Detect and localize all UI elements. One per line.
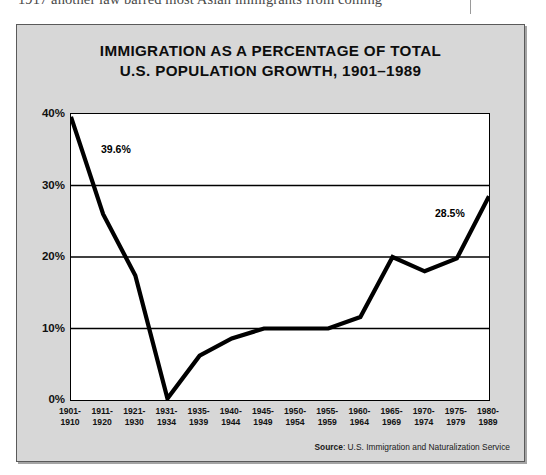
y-axis: 0%10%20%30%40%: [17, 113, 65, 401]
x-tick-label: 1980-1989: [465, 406, 511, 427]
x-axis: 1901-19101911-19201921-19301931-19341935…: [70, 406, 490, 440]
x-tick-label-part: 1980-: [465, 406, 511, 417]
annotation-start-value: 39.6%: [101, 143, 131, 155]
plot-area: [70, 113, 490, 401]
column-divider: [470, 0, 471, 14]
chart-title-line-2: U.S. POPULATION GROWTH, 1901–1989: [17, 61, 524, 81]
chart-figure: IMMIGRATION AS A PERCENTAGE OF TOTAL U.S…: [16, 24, 525, 462]
page-body-text-fragment: 1917 another law barred most Asian immig…: [18, 0, 438, 8]
chart-source-label: Source: [314, 442, 342, 452]
x-tick-label-part: 1989: [465, 417, 511, 428]
y-tick-label: 20%: [21, 251, 65, 262]
line-chart-svg: [71, 114, 489, 400]
y-tick-label: 30%: [21, 180, 65, 191]
y-tick-label: 40%: [21, 108, 65, 119]
chart-source: Source: U.S. Immigration and Naturalizat…: [314, 442, 510, 452]
chart-title: IMMIGRATION AS A PERCENTAGE OF TOTAL U.S…: [17, 41, 524, 81]
y-tick-label: 0%: [21, 394, 65, 405]
chart-title-line-1: IMMIGRATION AS A PERCENTAGE OF TOTAL: [17, 41, 524, 61]
y-tick-label: 10%: [21, 323, 65, 334]
data-series-line: [71, 117, 489, 399]
gridlines: [71, 186, 489, 329]
chart-source-text: : U.S. Immigration and Naturalization Se…: [343, 442, 510, 452]
annotation-end-value: 28.5%: [435, 207, 465, 219]
